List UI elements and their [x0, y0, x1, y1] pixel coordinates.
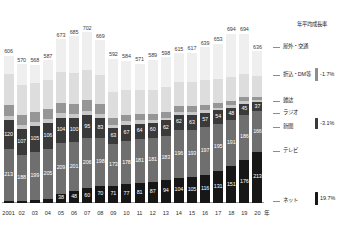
x-axis-tick-label: 12 — [150, 211, 156, 217]
bar-segment-value: 104 — [175, 188, 184, 193]
bar-segment-value: 183 — [161, 155, 170, 160]
x-axis-tick-label: 2001 — [2, 211, 14, 217]
bar-segment — [200, 47, 210, 80]
bar-segment — [82, 70, 92, 101]
cagr-bar-glyph — [315, 68, 318, 81]
bar-segment: 81 — [135, 183, 145, 203]
bar-segment-value: 201 — [70, 164, 79, 169]
legend-item-4: ラジオ — [283, 110, 298, 115]
bar-column: 63193105617 — [187, 53, 197, 203]
bar-segment-value: 188 — [17, 175, 26, 180]
bar-segment — [252, 76, 262, 97]
bar-segment: 106 — [43, 123, 53, 149]
bar-segment — [148, 90, 158, 115]
bar-segment-value: 198 — [96, 159, 105, 164]
bar-segment-value: 37 — [255, 104, 261, 109]
legend-item-7: ネット — [283, 198, 298, 203]
bar-segment: 107 — [17, 129, 27, 155]
bar-segment-value: 166 — [253, 129, 262, 134]
bar-segment: 196 — [174, 130, 184, 178]
bar-segment-value: 83 — [97, 125, 103, 130]
bar-segment — [69, 36, 79, 73]
bar-segment-value: 70 — [97, 192, 103, 197]
bar-segment — [82, 32, 92, 69]
legend-leader-line — [273, 101, 280, 102]
bar-segment: 83 — [95, 118, 105, 138]
bar-segment — [43, 199, 53, 203]
bar-segment-value: 87 — [150, 190, 156, 195]
legend-leader-line — [273, 47, 280, 48]
bar-segment-value: 94 — [163, 189, 169, 194]
bar-segment: 198 — [95, 138, 105, 186]
x-axis-tick-label: 09 — [110, 211, 116, 217]
cagr-bar-glyph — [315, 192, 318, 205]
bar-segment-value: 104 — [57, 128, 66, 133]
bar-segment-value: 48 — [71, 194, 77, 199]
bar-segment-value: 60 — [150, 128, 156, 133]
bar-column: 54195131653 — [213, 44, 223, 203]
bar-total-value: 584 — [122, 54, 131, 61]
bar-segment-value: 186 — [240, 135, 249, 140]
x-axis-tick-label: 19 — [241, 211, 247, 217]
x-axis-tick-label: 13 — [163, 211, 169, 217]
bar-segment: 100 — [69, 118, 79, 142]
bar-segment — [43, 109, 53, 118]
bar-segment: 94 — [161, 180, 171, 203]
bar-segment: 54 — [213, 110, 223, 123]
cagr-bar-glyph — [315, 118, 318, 129]
bar-segment — [4, 201, 14, 203]
bar-segment — [17, 201, 27, 203]
bar-segment-value: 199 — [30, 173, 39, 178]
bar-total-value: 653 — [214, 37, 223, 44]
bar-segment — [4, 74, 14, 106]
bar-total-value: 694 — [240, 27, 249, 34]
bar-column: 6218394598 — [161, 57, 171, 203]
bar-column: 8319870669 — [95, 40, 105, 203]
bar-segment: 176 — [239, 160, 249, 203]
bar-segment-value: 209 — [57, 166, 66, 171]
bar-total-value: 570 — [17, 58, 26, 65]
bar-column: 6317371592 — [108, 59, 118, 203]
bar-segment — [121, 90, 131, 115]
bar-segment — [43, 80, 53, 110]
bar-segment — [56, 103, 66, 113]
bar-column: 6418181571 — [135, 64, 145, 203]
bar-segment: 209 — [56, 143, 66, 194]
bar-segment: 62 — [174, 115, 184, 130]
bar-segment — [135, 64, 145, 90]
bar-segment-value: 106 — [44, 133, 53, 138]
bar-segment: 178 — [121, 141, 131, 184]
bar-segment-value: 105 — [30, 136, 39, 141]
x-axis-tick-label: 06 — [71, 211, 77, 217]
bar-column: 9520660702 — [82, 32, 92, 203]
bar-segment — [108, 92, 118, 118]
bar-segment — [135, 90, 145, 114]
bar-segment: 105 — [30, 126, 40, 152]
bar-segment — [4, 56, 14, 74]
bar-total-value: 615 — [174, 47, 183, 54]
bar-segment — [30, 200, 40, 203]
bar-segment-value: 100 — [70, 127, 79, 132]
bar-segment: 60 — [148, 123, 158, 138]
bar-segment — [17, 85, 27, 115]
cagr-value-label: 19.7% — [320, 196, 335, 201]
bar-segment-value: 116 — [201, 186, 209, 191]
bar-segment: 70 — [95, 186, 105, 203]
bar-segment-value: 197 — [201, 148, 210, 153]
bar-segment-value: 60 — [84, 193, 90, 198]
bar-segment — [213, 79, 223, 103]
x-axis-line — [2, 202, 264, 203]
bar-segment — [69, 73, 79, 104]
bar-segment — [95, 40, 105, 75]
bar-column: 105199568 — [30, 65, 40, 203]
bar-segment-value: 205 — [44, 171, 53, 176]
bar-segment — [252, 51, 262, 76]
bar-segment: 120 — [4, 120, 14, 149]
bar-segment-value: 213 — [4, 173, 13, 178]
bar-total-value: 587 — [43, 54, 52, 61]
bar-segment: 60 — [82, 188, 92, 203]
bar-segment-value: 95 — [84, 124, 90, 129]
bar-total-value: 617 — [188, 46, 197, 53]
bar-segment: 64 — [135, 124, 145, 140]
bar-total-value: 694 — [227, 27, 236, 34]
